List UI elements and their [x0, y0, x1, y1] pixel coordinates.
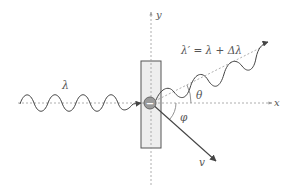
x-axis-label: x	[274, 97, 280, 108]
phi-label: φ	[180, 111, 188, 123]
scattered-wavelength-label: λ′ = λ + Δλ	[180, 44, 242, 56]
compton-diagram: − y x λ λ′ = λ + Δλ θ φ v	[0, 0, 293, 186]
y-axis-label: y	[155, 9, 162, 20]
incident-wavelength-label: λ	[61, 79, 69, 92]
velocity-label: v	[199, 156, 205, 168]
electron-charge-label: −	[146, 98, 154, 109]
phi-arc	[170, 103, 176, 119]
theta-label: θ	[196, 89, 203, 101]
